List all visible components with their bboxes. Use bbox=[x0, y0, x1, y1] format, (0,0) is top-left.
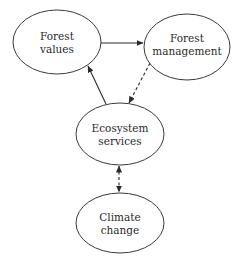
node-forest-values: Forest values bbox=[13, 10, 101, 74]
node-ellipse bbox=[76, 193, 164, 253]
node-ellipse bbox=[76, 103, 164, 165]
node-label-line1: Ecosystem bbox=[92, 122, 149, 134]
node-label-line1: Forest bbox=[40, 30, 75, 42]
arrow-forest-management-to-ecosystem-services bbox=[129, 63, 150, 103]
node-label-line2: change bbox=[101, 224, 140, 236]
node-forest-management: Forest management bbox=[144, 14, 230, 80]
node-label-line2: services bbox=[98, 135, 141, 147]
arrow-ecosystem-services-to-forest-values bbox=[88, 66, 106, 104]
node-label-line1: Forest bbox=[170, 32, 205, 44]
node-label-line1: Climate bbox=[99, 211, 140, 223]
node-label-line2: values bbox=[39, 43, 74, 55]
node-climate-change: Climate change bbox=[76, 193, 164, 253]
node-ecosystem-services: Ecosystem services bbox=[76, 103, 164, 165]
node-ellipse bbox=[13, 10, 101, 74]
node-label-line2: management bbox=[152, 45, 222, 57]
diagram-canvas: Forest values Forest management Ecosyste… bbox=[0, 0, 241, 263]
